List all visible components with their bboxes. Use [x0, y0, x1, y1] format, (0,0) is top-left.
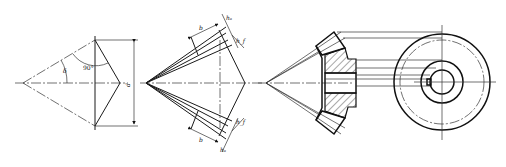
back-cone-upper: [95, 40, 120, 83]
pitch-cone-top: [146, 33, 226, 83]
tooth-proportions-view: b hₐ h_f b hₐ h_f: [140, 14, 262, 153]
right-angle-label: 90°: [83, 64, 94, 71]
tip-cone-top: [146, 27, 226, 83]
root-cone-bottom-2: [146, 83, 232, 121]
sectional-view: [258, 32, 356, 134]
dedendum-label-bottom: h_f: [236, 118, 247, 126]
addendum-label-bottom: hₐ: [220, 146, 226, 153]
end-view: [394, 25, 496, 140]
back-cone-bottom: [219, 83, 245, 136]
dedendum-label-top: h_f: [236, 37, 247, 45]
tip-cone-bottom: [146, 83, 226, 139]
cone-line-3: [266, 52, 318, 83]
root-cone-bottom: [146, 83, 228, 126]
pitch-cone-view: d δ 90°: [15, 36, 138, 130]
hatched-section-bottom: [325, 93, 356, 118]
diameter-label: d: [124, 83, 131, 87]
bevel-gear-drawing: d δ 90° b hₐ h_f b: [0, 0, 506, 167]
face-width-label-bottom: b: [199, 136, 203, 143]
face-width-label-top: b: [199, 24, 203, 31]
addendum-label-top: hₐ: [226, 14, 232, 21]
pitch-cone-bottom: [146, 83, 226, 133]
root-cone-top-2: [146, 45, 232, 83]
hatched-section-top: [325, 48, 356, 73]
cone-line-6: [266, 83, 318, 114]
pitch-cone-lower-line: [23, 83, 95, 126]
root-cone-top: [146, 40, 228, 83]
back-cone-lower: [95, 83, 120, 126]
pitch-cone-upper-line: [23, 40, 95, 83]
cone-angle-label: δ: [63, 67, 67, 74]
